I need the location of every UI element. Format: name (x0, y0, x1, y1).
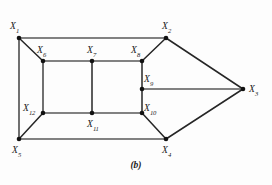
graph-edge (19, 113, 43, 139)
graph-node-x3[interactable] (241, 87, 246, 92)
graph-node-x9[interactable] (140, 87, 145, 92)
node-label-x8: X8 (131, 46, 140, 56)
node-label-base: X (144, 103, 150, 113)
node-label-base: X (87, 45, 93, 55)
node-label-subscript: 4 (168, 151, 171, 158)
node-label-x9: X9 (144, 75, 153, 85)
node-label-subscript: 8 (137, 51, 140, 58)
graph-edge (142, 38, 166, 61)
node-label-base: X (23, 103, 29, 113)
node-label-base: X (162, 145, 168, 155)
node-label-subscript: 9 (150, 80, 153, 87)
node-label-subscript: 11 (93, 125, 99, 132)
node-label-x4: X4 (162, 146, 171, 156)
figure-caption: (b) (0, 160, 272, 170)
graph-edge (142, 113, 166, 139)
graph-node-x11[interactable] (90, 111, 95, 116)
node-label-base: X (87, 119, 93, 129)
node-label-x6: X6 (37, 46, 46, 56)
node-label-subscript: 3 (255, 90, 258, 97)
graph-node-x4[interactable] (164, 137, 169, 142)
node-label-x3: X3 (249, 85, 258, 95)
node-label-subscript: 5 (18, 151, 21, 158)
node-label-x7: X7 (87, 46, 96, 56)
graph-node-x6[interactable] (41, 59, 46, 64)
node-label-x1: X1 (10, 22, 19, 32)
graph-figure: X1X2X3X4X5X6X7X8X9X10X11X12 (b) (0, 0, 272, 185)
node-label-base: X (131, 45, 137, 55)
node-label-x10: X10 (144, 104, 156, 114)
graph-edge (166, 89, 243, 139)
graph-node-x8[interactable] (140, 59, 145, 64)
node-label-subscript: 1 (16, 27, 19, 34)
node-label-subscript: 7 (93, 51, 96, 58)
node-label-base: X (12, 145, 18, 155)
graph-node-x12[interactable] (41, 111, 46, 116)
graph-node-x1[interactable] (17, 36, 22, 41)
node-label-x5: X5 (12, 146, 21, 156)
graph-node-x7[interactable] (90, 59, 95, 64)
graph-node-x5[interactable] (17, 137, 22, 142)
node-label-subscript: 6 (43, 51, 46, 58)
graph-node-x2[interactable] (164, 36, 169, 41)
node-label-subscript: 10 (150, 109, 156, 116)
node-label-subscript: 12 (29, 109, 35, 116)
node-label-base: X (10, 21, 16, 31)
graph-canvas (0, 0, 272, 185)
node-label-base: X (249, 84, 255, 94)
node-label-base: X (162, 21, 168, 31)
node-label-base: X (144, 74, 150, 84)
node-label-x11: X11 (87, 120, 99, 130)
node-label-x12: X12 (23, 104, 35, 114)
node-label-subscript: 2 (168, 27, 171, 34)
node-label-x2: X2 (162, 22, 171, 32)
node-label-base: X (37, 45, 43, 55)
graph-edge (166, 38, 243, 89)
